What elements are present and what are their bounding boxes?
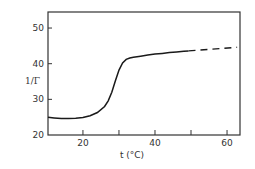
chart: 20304050 204060 1/Γ t (°C): [0, 0, 255, 169]
x-tick-label: 60: [221, 138, 233, 148]
y-axis-label: 1/Γ: [25, 76, 40, 86]
y-tick-label: 20: [33, 130, 45, 140]
plot-frame: [48, 12, 240, 135]
x-axis-label: t (°C): [120, 150, 144, 160]
x-axis-ticks: 204060: [77, 130, 233, 148]
y-tick-label: 50: [33, 23, 45, 33]
x-tick-label: 20: [77, 138, 89, 148]
y-tick-label: 30: [33, 94, 45, 104]
extrapolated-curve: [189, 47, 238, 51]
x-tick-label: 40: [149, 138, 161, 148]
measured-curve: [48, 51, 189, 119]
y-tick-label: 40: [33, 59, 45, 69]
